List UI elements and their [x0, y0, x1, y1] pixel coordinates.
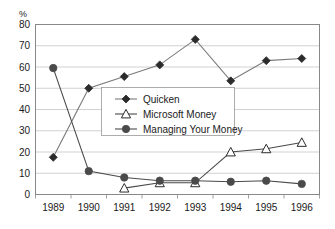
legend-label: Managing Your Money: [143, 124, 243, 135]
x-tick-label: 1990: [78, 202, 101, 213]
x-tick-label: 1995: [255, 202, 278, 213]
data-point-circle: [85, 167, 92, 174]
data-point-circle: [156, 177, 163, 184]
data-point-diamond: [262, 57, 270, 65]
x-axis-ticks: [36, 195, 320, 199]
y-tick-label: 60: [19, 62, 31, 73]
x-tick-label: 1993: [184, 202, 207, 213]
legend-label: Microsoft Money: [143, 109, 216, 120]
y-tick-label: 40: [19, 104, 31, 115]
x-tick-label: 1991: [113, 202, 136, 213]
data-point-diamond: [156, 61, 164, 69]
data-point-diamond: [298, 55, 306, 63]
y-tick-label: 20: [19, 147, 31, 158]
y-axis-tick-labels: 01020304050607080: [19, 19, 31, 200]
series-2: [120, 138, 307, 192]
data-point-diamond: [85, 84, 93, 92]
y-tick-label: 0: [24, 189, 30, 200]
x-axis-tick-labels: 19891990199119921993199419951996: [42, 202, 313, 213]
y-tick-label: 50: [19, 83, 31, 94]
chart-legend: QuickenMicrosoft MoneyManaging Your Mone…: [102, 88, 243, 136]
y-tick-label: 30: [19, 125, 31, 136]
data-point-circle: [263, 177, 270, 184]
data-point-triangle: [297, 138, 306, 147]
legend-label: Quicken: [143, 94, 180, 105]
y-tick-label: 70: [19, 40, 31, 51]
data-point-diamond: [120, 73, 128, 81]
data-point-circle: [192, 177, 199, 184]
data-point-circle: [227, 178, 234, 185]
data-point-circle: [50, 64, 57, 71]
x-tick-label: 1992: [149, 202, 172, 213]
y-tick-label: 10: [19, 168, 31, 179]
y-tick-label: 80: [19, 19, 31, 30]
chart-canvas: 01020304050607080 % 19891990199119921993…: [0, 0, 335, 229]
data-point-circle: [122, 125, 129, 132]
y-axis-unit-label: %: [19, 9, 27, 19]
data-point-diamond: [49, 153, 57, 161]
x-tick-label: 1989: [42, 202, 65, 213]
data-point-circle: [121, 174, 128, 181]
x-tick-label: 1994: [220, 202, 243, 213]
x-tick-label: 1996: [291, 202, 314, 213]
data-point-circle: [298, 180, 305, 187]
line-chart: 01020304050607080 % 19891990199119921993…: [0, 0, 335, 229]
